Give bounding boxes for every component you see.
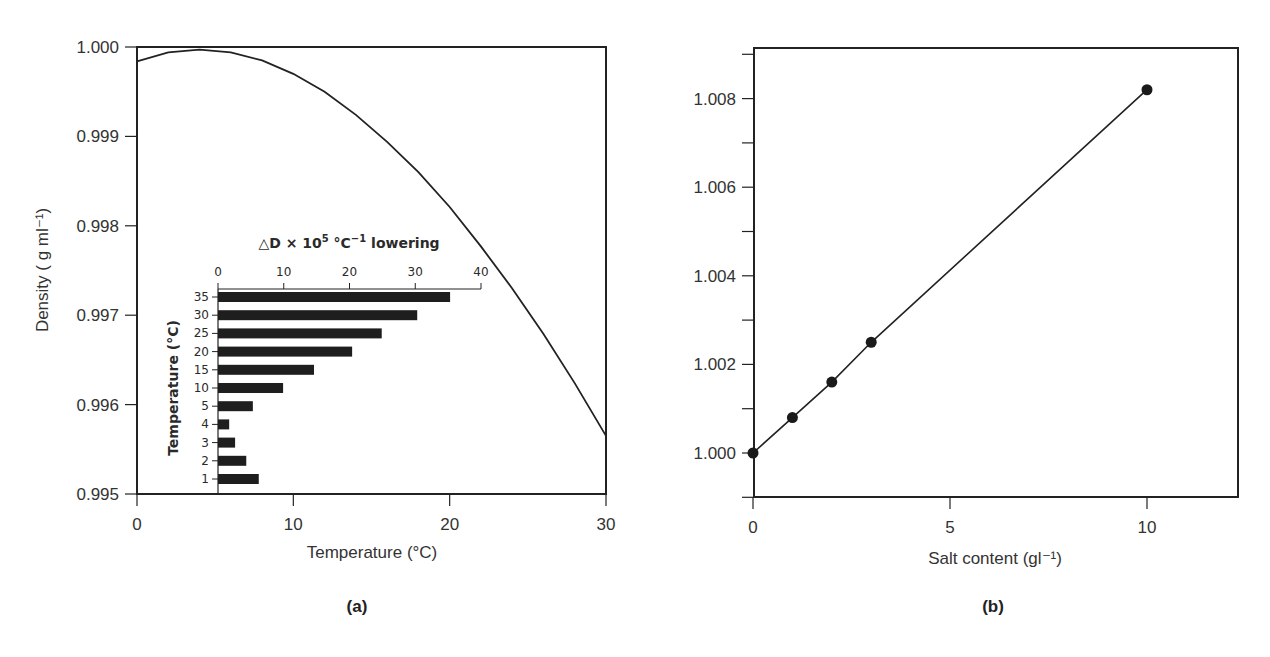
x-tick-label: 0 (748, 518, 757, 537)
data-point-marker (1142, 84, 1153, 95)
y-tick-label: 1.008 (693, 90, 736, 109)
inset-y-tick-label: 3 (201, 436, 209, 450)
y-tick-label: 1.004 (693, 267, 736, 286)
inset-bar (218, 292, 450, 302)
inset-x-tick-label: 40 (473, 265, 488, 279)
inset-y-tick-label: 10 (194, 381, 209, 395)
inset-bar (218, 310, 417, 320)
inset-bar (218, 347, 352, 357)
panel-a-x-axis-label: Temperature (°C) (307, 543, 438, 562)
y-tick-label: 0.999 (76, 127, 119, 146)
y-tick-label: 1.006 (693, 178, 736, 197)
x-tick-label: 30 (597, 515, 616, 534)
inset-y-tick-label: 2 (201, 454, 209, 468)
x-tick-label: 0 (132, 515, 141, 534)
inset-y-tick-label: 30 (194, 308, 209, 322)
inset-y-tick-label: 20 (194, 345, 209, 359)
inset-y-axis-label: Temperature (°C) (165, 320, 181, 456)
x-tick-label: 5 (945, 518, 954, 537)
inset-x-tick-label: 0 (214, 265, 222, 279)
data-point-marker (866, 337, 877, 348)
y-tick-label: 1.000 (76, 38, 119, 57)
inset-y-tick-label: 4 (201, 417, 209, 431)
y-tick-label: 0.995 (76, 485, 119, 504)
panel-a-density-vs-temperature: 0.9950.9960.9970.9980.9991.000 0102030 D… (33, 38, 615, 562)
x-tick-label: 20 (440, 515, 459, 534)
panel-b-x-axis: 0510 (748, 497, 1156, 537)
inset-bar (218, 383, 283, 393)
inset-bar (218, 401, 253, 411)
inset-x-tick-label: 30 (408, 265, 423, 279)
panel-b-y-axis: 1.0001.0021.0041.0061.008 (693, 54, 754, 497)
data-point-marker (826, 377, 837, 388)
panel-b-density-vs-salt: 1.0001.0021.0041.0061.008 0510 Salt cont… (693, 48, 1238, 568)
inset-bar (218, 438, 235, 448)
x-tick-label: 10 (284, 515, 303, 534)
panel-b-density-line (753, 90, 1147, 453)
data-point-marker (748, 448, 759, 459)
panel-b-plot-frame (754, 48, 1238, 497)
inset-y-tick-label: 15 (194, 363, 209, 377)
inset-bar (218, 365, 314, 375)
inset-bars: 35302520151054321 (194, 290, 450, 486)
inset-x-tick-label: 20 (342, 265, 357, 279)
y-tick-label: 0.996 (76, 396, 119, 415)
y-tick-label: 1.000 (693, 444, 736, 463)
inset-title: △D × 105 °C−1 lowering (258, 233, 439, 251)
inset-x-tick-label: 10 (276, 265, 291, 279)
data-point-marker (787, 412, 798, 423)
panel-a-label: (a) (347, 597, 368, 616)
inset-y-tick-label: 25 (194, 326, 209, 340)
inset-bar (218, 474, 259, 484)
inset-x-ticks: 010203040 (214, 265, 488, 289)
y-tick-label: 1.002 (693, 355, 736, 374)
inset-y-tick-label: 35 (194, 290, 209, 304)
inset-y-tick-label: 1 (201, 472, 209, 486)
panel-a-y-axis-label: Density ( g ml⁻¹) (33, 208, 52, 332)
y-tick-label: 0.998 (76, 217, 119, 236)
inset-y-tick-label: 5 (201, 399, 209, 413)
inset-bar (218, 456, 246, 466)
panel-b-label: (b) (982, 597, 1004, 616)
x-tick-label: 10 (1138, 518, 1157, 537)
figure: 0.9950.9960.9970.9980.9991.000 0102030 D… (0, 0, 1270, 657)
panel-a-x-axis: 0102030 (132, 494, 615, 534)
panel-a-inset-bar-chart: △D × 105 °C−1 lowering 010203040 3530252… (165, 233, 489, 494)
inset-bar (218, 328, 382, 338)
panel-b-x-axis-label: Salt content (gl⁻¹) (928, 549, 1062, 568)
y-tick-label: 0.997 (76, 306, 119, 325)
panel-a-y-axis: 0.9950.9960.9970.9980.9991.000 (76, 38, 137, 504)
inset-bar (218, 419, 229, 429)
